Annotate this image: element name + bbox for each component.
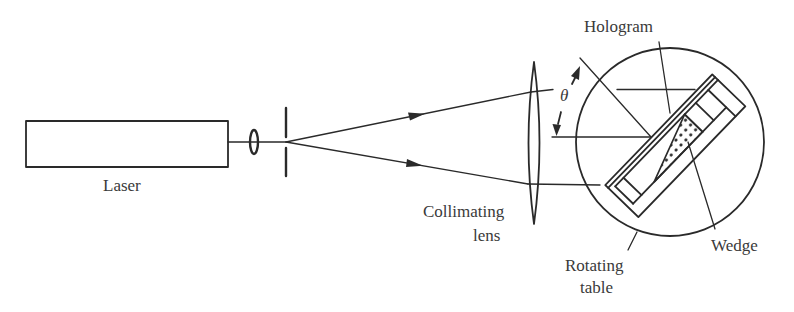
hologram-leader bbox=[659, 42, 670, 113]
diverging-beam bbox=[286, 92, 531, 184]
holder-assembly bbox=[605, 74, 745, 217]
laser-label: Laser bbox=[103, 177, 141, 194]
rotating-table-label-line1: Rotating bbox=[565, 257, 624, 274]
angle-arrow-up-icon bbox=[571, 66, 580, 80]
collimating-lens-label-line2: lens bbox=[473, 227, 500, 244]
normal-line bbox=[580, 58, 651, 137]
rotating-table-label-line2: table bbox=[580, 279, 613, 296]
rotating-table[interactable] bbox=[576, 48, 764, 236]
laser-body bbox=[26, 121, 228, 167]
wedge-leader bbox=[688, 142, 715, 229]
angle-theta-label: θ bbox=[560, 87, 568, 104]
rotating-table-leader bbox=[628, 232, 637, 250]
collimating-lens-label-line1: Collimating bbox=[423, 203, 504, 220]
wedge-label: Wedge bbox=[711, 237, 758, 254]
collimated-ray-upper bbox=[531, 90, 553, 93]
ray-arrow-icon bbox=[408, 113, 425, 121]
ray-arrow-icon bbox=[406, 159, 423, 167]
angle-arrow-down-icon bbox=[553, 124, 562, 136]
collimating-lens-icon bbox=[529, 62, 540, 224]
hologram-label: Hologram bbox=[584, 18, 653, 35]
optical-setup-diagram bbox=[0, 0, 794, 312]
